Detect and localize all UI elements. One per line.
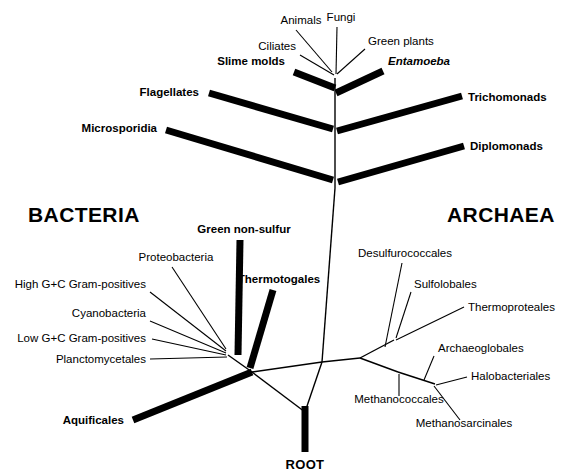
taxon-label-microsporidia: Microsporidia (82, 122, 158, 134)
bacteria-branch-cyanobacteria (150, 321, 226, 353)
archaea-branch-halobacteriales (436, 377, 467, 385)
crown-branch-ciliates (300, 55, 334, 75)
trunk-archaea-link (322, 358, 360, 362)
branch-aquificales (133, 372, 252, 420)
archaea-branch-sulfolobales (396, 292, 411, 338)
domain-label-archaea: ARCHAEA (447, 203, 555, 226)
taxon-label-flagellates: Flagellates (140, 86, 199, 98)
taxon-label-fungi: Fungi (327, 11, 356, 23)
taxon-label-entamoeba: Entamoeba (388, 55, 451, 67)
bacteria-branch-low-gc-gram-positives (152, 339, 226, 355)
trunk-root-link (252, 372, 305, 412)
taxon-label-animals: Animals (281, 14, 322, 26)
taxon-label-thermoproteales: Thermoproteales (468, 301, 555, 313)
taxon-label-green-non-sulfur: Green non-sulfur (197, 223, 291, 235)
bacteria-branch-planctomycetales (150, 357, 227, 359)
branch-microsporidia (166, 130, 333, 180)
bacteria-branch-high-gc-gram-positives (150, 292, 226, 351)
taxon-label-proteobacteria: Proteobacteria (139, 251, 214, 263)
taxon-label-methanococcales: Methanococcales (354, 393, 444, 405)
taxon-label-green-plants: Green plants (368, 35, 434, 47)
taxon-label-aquificales: Aquificales (63, 414, 124, 426)
domain-label-bacteria: BACTERIA (28, 203, 140, 226)
branch-green-non-sulfur (238, 240, 240, 355)
branch-slime-molds (294, 72, 335, 88)
taxon-label-methanosarcinales: Methanosarcinales (416, 417, 513, 429)
archaea-archaea-base-to-eury (360, 358, 398, 372)
branch-trichomonads (337, 96, 462, 131)
taxon-label-archaeoglobales: Archaeoglobales (438, 342, 524, 354)
tree-diagram: Slime moldsEntamoebaFlagellatesTrichomon… (0, 0, 574, 475)
taxon-label-slime-molds: Slime molds (217, 55, 285, 67)
branch-thermotogales (250, 290, 273, 368)
archaea-branch-desulfurococcales (385, 263, 402, 347)
trunk-bacteria-link (252, 362, 322, 372)
taxon-label-desulfurococcales: Desulfurococcales (358, 247, 452, 259)
archaea-branch-archaeoglobales (424, 356, 434, 380)
taxon-label-ciliates: Ciliates (258, 40, 296, 52)
branch-diplomonads (338, 146, 464, 182)
trunk-archaea-root-link (305, 362, 322, 412)
branch-flagellates (209, 93, 333, 129)
taxon-label-sulfolobales: Sulfolobales (414, 278, 477, 290)
archaea-archaea-base-to-cren (360, 340, 394, 358)
crown-branch-green-plants (337, 49, 365, 74)
crown-branch-animals (296, 30, 332, 72)
archaea-branch-thermoproteales (396, 307, 464, 340)
branch-entamoeba (336, 71, 383, 93)
eukaryote-crown-group (296, 27, 365, 75)
bacteria-branch-proteobacteria (172, 267, 226, 349)
phylogenetic-tree-figure: Slime moldsEntamoebaFlagellatesTrichomon… (0, 0, 574, 475)
thick-branch-group (133, 71, 464, 420)
taxon-label-planctomycetales: Planctomycetales (56, 353, 146, 365)
archaea-eury-to-split (398, 372, 435, 384)
taxon-label-thermotogales: Thermotogales (238, 273, 320, 285)
taxon-label-diplomonads: Diplomonads (470, 140, 543, 152)
taxon-label-cyanobacteria: Cyanobacteria (72, 307, 147, 319)
trunk-universal-stem (322, 188, 335, 362)
taxon-label-low-gc-gram-positives: Low G+C Gram-positives (17, 332, 146, 344)
crown-branch-fungi (336, 27, 337, 74)
taxon-label-high-gc-gram-positives: High G+C Gram-positives (15, 278, 147, 290)
taxon-label-trichomonads: Trichomonads (468, 91, 547, 103)
root-label: ROOT (286, 457, 325, 472)
taxon-label-halobacteriales: Halobacteriales (471, 370, 551, 382)
